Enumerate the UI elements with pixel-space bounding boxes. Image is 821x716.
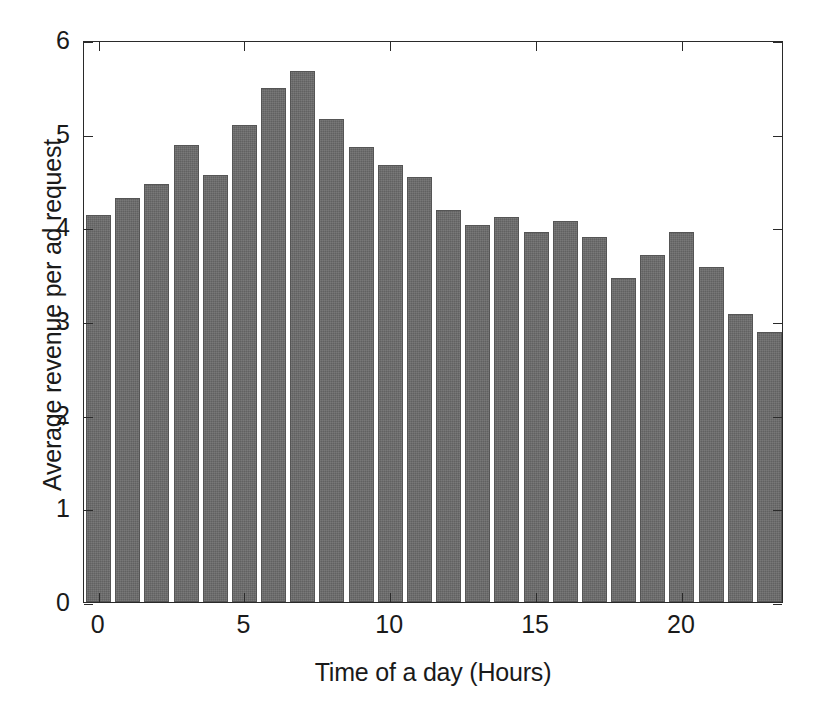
x-axis-tick [99, 593, 100, 602]
bar [261, 88, 286, 602]
x-axis-tick [536, 593, 537, 602]
bar [436, 210, 461, 602]
y-axis-tick-labels: 0123456 [8, 41, 70, 603]
bar [290, 71, 315, 602]
x-axis-tick-labels: 05101520 [83, 612, 783, 646]
bar [144, 184, 169, 602]
y-axis-tick [84, 510, 93, 511]
bar [757, 332, 782, 602]
bar [611, 278, 636, 602]
bar [465, 225, 490, 602]
x-axis-tick [244, 593, 245, 602]
bar [115, 198, 140, 602]
bar [728, 314, 753, 602]
y-axis-tick [84, 136, 93, 137]
x-axis-title: Time of a day (Hours) [83, 658, 783, 687]
y-axis-tick-label: 5 [10, 122, 70, 147]
bar [349, 147, 374, 602]
bar [203, 175, 228, 602]
x-axis-tick-label: 10 [359, 612, 419, 637]
bar-chart-figure: Average revenue per ad request 0123456 0… [0, 0, 821, 716]
plot-box [83, 41, 783, 603]
x-axis-tick [682, 42, 683, 51]
bar [582, 237, 607, 602]
y-axis-tick-label: 1 [10, 496, 70, 521]
y-axis-tick [773, 229, 782, 230]
x-axis-tick [99, 42, 100, 51]
bar [640, 255, 665, 603]
y-axis-tick [773, 323, 782, 324]
x-axis-tick-label: 5 [213, 612, 273, 637]
bar [86, 215, 111, 602]
y-axis-tick [84, 417, 93, 418]
y-axis-tick [773, 136, 782, 137]
bar [407, 177, 432, 602]
y-axis-tick [84, 604, 93, 605]
bar [669, 232, 694, 602]
bar [319, 119, 344, 602]
x-axis-tick [244, 42, 245, 51]
bar [494, 217, 519, 602]
bar [553, 221, 578, 602]
x-axis-tick [536, 42, 537, 51]
y-axis-tick-label: 2 [10, 403, 70, 428]
x-axis-tick [390, 42, 391, 51]
bar [174, 145, 199, 602]
bar [232, 125, 257, 602]
bar [699, 267, 724, 602]
y-axis-tick-label: 4 [10, 215, 70, 240]
x-axis-tick-label: 15 [505, 612, 565, 637]
bar [378, 165, 403, 602]
y-axis-tick [773, 510, 782, 511]
y-axis-tick [84, 229, 93, 230]
x-axis-tick-label: 20 [651, 612, 711, 637]
bar [524, 232, 549, 602]
plot-area [84, 42, 782, 602]
y-axis-tick-label: 3 [10, 309, 70, 334]
y-axis-tick [773, 42, 782, 43]
y-axis-tick [84, 323, 93, 324]
x-axis-tick-label: 0 [68, 612, 128, 637]
y-axis-tick [773, 604, 782, 605]
y-axis-tick [773, 417, 782, 418]
y-axis-tick-label: 0 [10, 590, 70, 615]
y-axis-tick-label: 6 [10, 28, 70, 53]
x-axis-tick [390, 593, 391, 602]
y-axis-tick [84, 42, 93, 43]
x-axis-tick [682, 593, 683, 602]
